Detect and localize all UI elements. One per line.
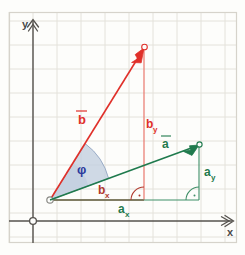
y-axis-label: y: [22, 18, 29, 30]
vector-a-label: a: [162, 137, 169, 151]
a-y-label: a: [204, 165, 211, 179]
b-y-label-subscript: y: [153, 125, 158, 134]
figure-background: [0, 0, 245, 255]
b-x-label-subscript: x: [105, 191, 110, 200]
a-y-label-subscript: y: [211, 173, 216, 182]
axis-origin-marker: [30, 218, 37, 225]
vector-diagram-figure: y x b a b y b x a y a x: [0, 0, 245, 255]
a-x-label: a: [118, 202, 125, 216]
angle-phi-label: φ: [77, 162, 86, 177]
vector-b-label: b: [78, 112, 86, 127]
x-axis-label: x: [227, 226, 234, 238]
vector-diagram-canvas: y x b a b y b x a y a x: [0, 0, 245, 255]
a-x-label-subscript: x: [125, 210, 130, 219]
vector-b-label-group: b: [76, 111, 87, 127]
vector-a-tip-marker: [197, 142, 202, 147]
vector-b-tip-marker: [142, 44, 148, 50]
